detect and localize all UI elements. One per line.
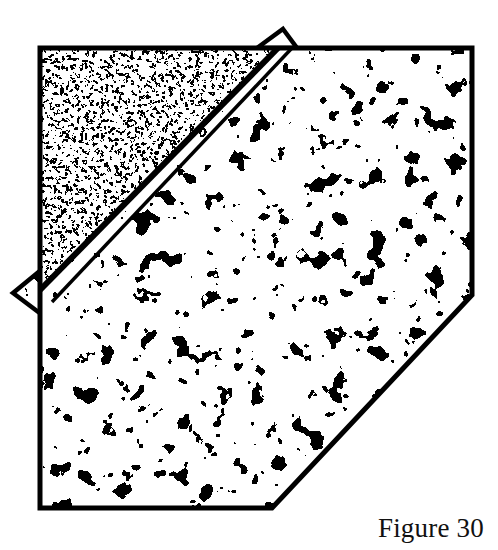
figure-canvas [0,0,498,550]
figure-illustration: Figure 30 [0,0,498,550]
figure-caption: Figure 30 [378,515,484,542]
